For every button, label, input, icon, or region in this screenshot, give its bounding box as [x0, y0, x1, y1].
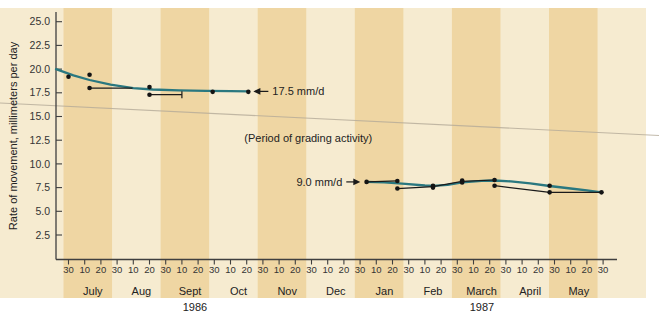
x-tick-label: 20: [193, 264, 204, 275]
x-tick-label: 20: [582, 264, 593, 275]
x-tick-label: 10: [79, 264, 90, 275]
x-tick-label: 30: [452, 264, 463, 275]
x-tick-label: 20: [290, 264, 301, 275]
x-tick-label: 10: [225, 264, 236, 275]
y-tick-label: 5.0: [35, 205, 50, 217]
x-tick-label: 10: [322, 264, 333, 275]
month-label: April: [519, 285, 541, 297]
y-tick-label: 20.0: [30, 63, 51, 75]
x-tick-label: 20: [144, 264, 155, 275]
x-tick-label: 30: [258, 264, 269, 275]
annotation-grading: (Period of grading activity): [244, 132, 372, 144]
month-stripe: [452, 8, 501, 298]
month-stripe: [258, 8, 307, 298]
x-tick-label: 30: [501, 264, 512, 275]
x-tick-label: 10: [274, 264, 285, 275]
x-tick-label: 10: [517, 264, 528, 275]
data-point: [147, 92, 152, 97]
x-tick-label: 20: [533, 264, 544, 275]
month-label: July: [83, 285, 103, 297]
data-point: [460, 180, 465, 185]
x-tick-label: 30: [112, 264, 123, 275]
x-tick-label: 30: [63, 264, 74, 275]
x-tick-label: 20: [96, 264, 107, 275]
x-tick-label: 20: [339, 264, 350, 275]
month-label: March: [466, 285, 497, 297]
y-tick-label: 25.0: [30, 15, 51, 27]
y-tick-label: 2.5: [35, 229, 50, 241]
year-label: 1986: [183, 301, 207, 313]
month-label: Aug: [132, 285, 152, 297]
data-point: [210, 90, 215, 95]
x-tick-label: 10: [565, 264, 576, 275]
y-axis-title: Rate of movement, millimeters per day: [7, 41, 19, 230]
month-label: May: [568, 285, 589, 297]
annotation-rate-1986: 17.5 mm/d: [272, 85, 324, 97]
x-tick-label: 20: [436, 264, 447, 275]
x-tick-label: 20: [484, 264, 495, 275]
y-tick-label: 12.5: [30, 134, 51, 146]
data-point: [492, 178, 497, 183]
x-tick-label: 10: [128, 264, 139, 275]
y-tick-label: 22.5: [30, 39, 51, 51]
chart-canvas: 25.022.520.017.515.012.510.07.55.02.5301…: [0, 0, 659, 321]
month-label: Feb: [424, 285, 443, 297]
y-tick-label: 17.5: [30, 86, 51, 98]
data-point: [547, 183, 552, 188]
x-tick-label: 30: [306, 264, 317, 275]
month-stripe: [549, 8, 598, 298]
x-tick-label: 30: [598, 264, 609, 275]
data-point: [492, 183, 497, 188]
data-point: [395, 179, 400, 184]
month-label: Jan: [376, 285, 394, 297]
x-tick-label: 30: [160, 264, 171, 275]
data-point: [431, 185, 436, 190]
month-label: Oct: [230, 285, 247, 297]
year-label: 1987: [470, 301, 494, 313]
x-tick-label: 10: [420, 264, 431, 275]
month-stripe: [161, 8, 210, 298]
data-point: [66, 74, 71, 79]
y-tick-label: 15.0: [30, 110, 51, 122]
x-tick-label: 30: [209, 264, 220, 275]
data-point: [395, 186, 400, 191]
month-label: Dec: [326, 285, 346, 297]
month-stripe: [64, 8, 113, 298]
x-tick-label: 10: [468, 264, 479, 275]
data-point: [364, 180, 369, 185]
month-stripe: [355, 8, 404, 298]
x-tick-label: 30: [549, 264, 560, 275]
data-point: [87, 72, 92, 77]
month-label: Sept: [179, 285, 202, 297]
x-tick-label: 30: [355, 264, 366, 275]
data-point: [599, 190, 604, 195]
x-tick-label: 30: [403, 264, 414, 275]
x-tick-label: 20: [387, 264, 398, 275]
data-point: [246, 90, 251, 95]
data-point: [87, 86, 92, 91]
annotation-rate-1987: 9.0 mm/d: [296, 176, 342, 188]
creep-rate-figure: 25.022.520.017.515.012.510.07.55.02.5301…: [0, 0, 659, 321]
data-point: [147, 85, 152, 90]
data-point: [547, 190, 552, 195]
x-tick-label: 10: [371, 264, 382, 275]
month-label: Nov: [277, 285, 297, 297]
x-tick-label: 10: [177, 264, 188, 275]
y-tick-label: 10.0: [30, 158, 51, 170]
x-tick-label: 20: [241, 264, 252, 275]
y-tick-label: 7.5: [35, 181, 50, 193]
